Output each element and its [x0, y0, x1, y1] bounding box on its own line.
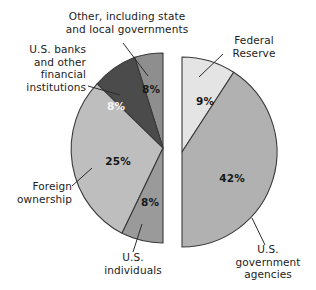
value-us-individuals: 8% — [136, 196, 164, 208]
label-us-individuals: U.S. individuals — [96, 251, 170, 276]
value-us-banks-financial: 8% — [102, 100, 130, 112]
value-us-government-agencies: 42% — [215, 172, 249, 184]
label-federal-reserve: Federal Reserve — [218, 34, 290, 59]
label-us-government-agencies: U.S. government agencies — [228, 243, 308, 281]
pie-chart-figure: Other, including state and local governm… — [0, 0, 316, 290]
leader-line-us-government-agencies — [252, 218, 265, 245]
label-other-state-local: Other, including state and local governm… — [62, 10, 192, 35]
value-other-state-local: 8% — [137, 83, 165, 95]
value-federal-reserve: 9% — [191, 95, 219, 107]
label-foreign-ownership: Foreign ownership — [0, 180, 72, 205]
value-foreign-ownership: 25% — [101, 155, 135, 167]
label-us-banks-financial: U.S. banks and other financial instituti… — [2, 43, 86, 93]
